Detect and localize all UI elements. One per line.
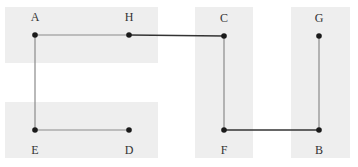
node-label-a: A — [31, 10, 40, 24]
node-e — [32, 127, 38, 133]
node-label-h: H — [125, 10, 134, 24]
graph-diagram: AHCGEDFB — [0, 0, 358, 167]
node-c — [221, 33, 227, 39]
node-label-e: E — [31, 143, 38, 157]
edge-h-c — [129, 35, 224, 36]
node-g — [316, 33, 322, 39]
node-f — [221, 127, 227, 133]
node-d — [126, 127, 132, 133]
region-right-column — [291, 7, 350, 158]
node-label-f: F — [221, 143, 228, 157]
node-a — [32, 32, 38, 38]
node-label-g: G — [315, 11, 324, 25]
node-b — [316, 127, 322, 133]
node-label-b: B — [315, 143, 323, 157]
shaded-regions — [5, 7, 350, 158]
node-label-d: D — [125, 143, 134, 157]
node-label-c: C — [220, 11, 228, 25]
node-h — [126, 32, 132, 38]
